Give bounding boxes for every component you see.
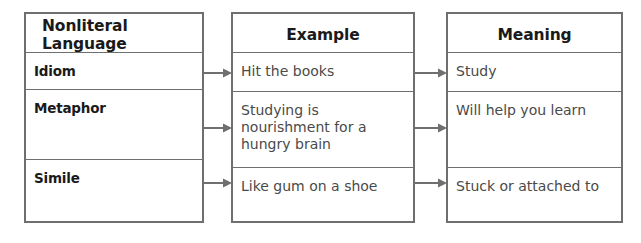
- column-header-label-example: Example: [241, 18, 405, 52]
- meaning-text-metaphor: Will help you learn: [456, 96, 613, 119]
- meaning-text-simile: Stuck or attached to: [456, 172, 613, 195]
- arrow-example-to-meaning-1: [415, 67, 447, 79]
- column-header-cell-example: Example: [233, 14, 413, 53]
- column-header-cell-meaning: Meaning: [448, 14, 621, 53]
- table-row-metaphor-meaning: Will help you learn: [448, 92, 621, 168]
- arrow-simile-to-example: [204, 177, 232, 189]
- term-label-simile: Simile: [34, 164, 194, 186]
- table-row-idiom-example: Hit the books: [233, 53, 413, 92]
- example-text-metaphor: Studying is nourishment for a hungry bra…: [241, 96, 405, 153]
- example-text-simile: Like gum on a shoe: [241, 172, 405, 195]
- nonliteral-language-table: Nonliteral Language Idiom Metaphor Simil…: [0, 0, 641, 243]
- arrow-metaphor-to-example: [204, 122, 232, 134]
- arrow-example-to-meaning-3: [415, 177, 447, 189]
- table-row-simile-example: Like gum on a shoe: [233, 168, 413, 221]
- column-meaning: Meaning Study Will help you learn Stuck …: [446, 12, 623, 223]
- column-header-label-language: Nonliteral Language: [34, 18, 194, 52]
- column-header-cell-language: Nonliteral Language: [26, 14, 202, 53]
- table-row-simile-term: Simile: [26, 160, 202, 221]
- arrow-example-to-meaning-2: [415, 122, 447, 134]
- table-row-metaphor-example: Studying is nourishment for a hungry bra…: [233, 92, 413, 168]
- table-row-idiom-meaning: Study: [448, 53, 621, 92]
- table-row-idiom-term: Idiom: [26, 53, 202, 90]
- column-nonliteral-language: Nonliteral Language Idiom Metaphor Simil…: [24, 12, 204, 223]
- arrow-idiom-to-example: [204, 67, 232, 79]
- meaning-text-idiom: Study: [456, 57, 613, 80]
- term-label-metaphor: Metaphor: [34, 94, 194, 116]
- example-text-idiom: Hit the books: [241, 57, 405, 80]
- term-label-idiom: Idiom: [34, 57, 194, 79]
- column-example: Example Hit the books Studying is nouris…: [231, 12, 415, 223]
- table-row-metaphor-term: Metaphor: [26, 90, 202, 160]
- table-row-simile-meaning: Stuck or attached to: [448, 168, 621, 221]
- column-header-label-meaning: Meaning: [456, 18, 613, 52]
